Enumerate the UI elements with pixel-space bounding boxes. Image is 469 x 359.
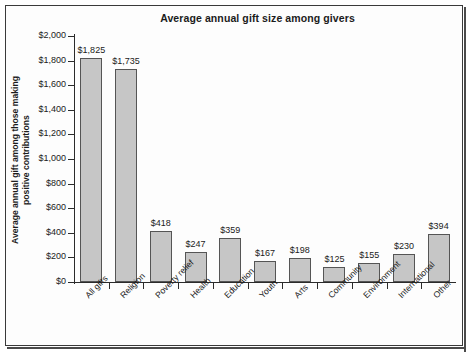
bar-value-label: $359 (205, 225, 255, 235)
frame-shadow-right (464, 7, 466, 352)
x-axis-category-labels: All giftsReligionPoverty reliefHealthEdu… (74, 289, 464, 355)
y-axis-tick-label: $1,000 (6, 153, 66, 163)
y-axis-tick-label: $800 (6, 178, 66, 188)
bar-value-label: $155 (344, 250, 394, 260)
bar-value-label: $230 (379, 241, 429, 251)
bar (289, 258, 311, 282)
y-axis-tick (68, 257, 74, 258)
bar (80, 58, 102, 282)
y-axis-tick-label: $200 (6, 251, 66, 261)
plot-area: $0$200$400$600$800$1,000$1,200$1,400$1,6… (74, 36, 456, 282)
bar-value-label: $418 (136, 218, 186, 228)
y-axis-tick-label: $1,800 (6, 55, 66, 65)
y-axis-tick (68, 134, 74, 135)
bar (115, 69, 137, 282)
y-axis-tick (68, 208, 74, 209)
y-axis-tick-labels: $0$200$400$600$800$1,000$1,200$1,400$1,6… (2, 36, 66, 282)
y-axis-tick-label: $600 (6, 202, 66, 212)
y-axis-tick (68, 282, 74, 283)
y-axis-tick-label: $0 (6, 276, 66, 286)
y-axis-tick (68, 110, 74, 111)
y-axis-tick (68, 184, 74, 185)
bar-value-label: $247 (171, 239, 221, 249)
y-axis-tick-label: $1,600 (6, 79, 66, 89)
y-axis-tick (68, 159, 74, 160)
figure: Average annual gift size among givers Av… (0, 0, 469, 359)
bar-value-label: $394 (414, 221, 464, 231)
chart-title: Average annual gift size among givers (60, 12, 455, 24)
y-axis-tick-label: $400 (6, 227, 66, 237)
bar (150, 231, 172, 282)
y-axis-tick-label: $1,200 (6, 128, 66, 138)
bar-value-label: $1,735 (101, 56, 151, 66)
y-axis-tick-label: $2,000 (6, 30, 66, 40)
y-axis-tick (68, 85, 74, 86)
y-axis-line (74, 34, 75, 284)
y-axis-tick (68, 36, 74, 37)
y-axis-tick-label: $1,400 (6, 104, 66, 114)
bar (428, 234, 450, 282)
y-axis-tick (68, 233, 74, 234)
y-axis-tick (68, 61, 74, 62)
bar-value-label: $1,825 (66, 45, 116, 55)
